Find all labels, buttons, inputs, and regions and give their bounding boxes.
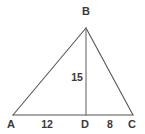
- vertex-label-a: A: [7, 119, 15, 130]
- segment-ad-length-label: 12: [41, 119, 53, 130]
- vertex-label-d: D: [81, 119, 89, 130]
- vertex-label-c: C: [128, 119, 136, 130]
- geometry-figure: B A D C 12 8 15: [0, 0, 145, 134]
- vertex-label-b: B: [82, 6, 90, 17]
- side-BC-line: [86, 28, 133, 115]
- triangle-diagram-svg: [0, 0, 145, 134]
- segment-dc-length-label: 8: [107, 119, 113, 130]
- altitude-bd-length-label: 15: [71, 72, 83, 83]
